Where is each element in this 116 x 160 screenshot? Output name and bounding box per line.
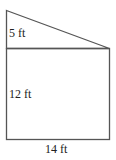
base-width-label: 14 ft: [45, 142, 68, 156]
triangle-height-label: 5 ft: [9, 26, 26, 40]
composite-shape-diagram: 5 ft 12 ft 14 ft: [0, 0, 116, 160]
rectangle-height-label: 12 ft: [9, 87, 32, 101]
